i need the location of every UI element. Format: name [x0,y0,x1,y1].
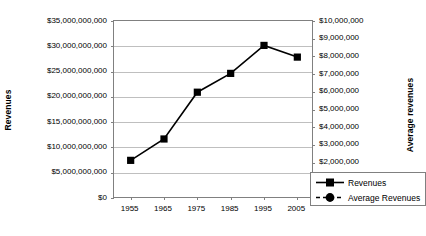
y-axis-left-tick-label: $5,000,000,000 [0,167,107,176]
chart-legend: Revenues Average Revenues [310,172,426,206]
y-axis-right-tick-label: $8,000,000 [319,51,359,60]
y-axis-right-tick-label: $3,000,000 [319,139,359,148]
y-axis-right-tick-label: $9,000,000 [319,33,359,42]
y-axis-right-tick-label: $6,000,000 [319,86,359,95]
y-axis-left-tick-label: $20,000,000,000 [0,91,107,100]
data-series-layer [114,21,314,199]
legend-marker-square-icon [315,177,345,188]
y-axis-left-tick-label: $25,000,000,000 [0,66,107,75]
plot-area: Revenues Average Revenues [113,20,313,198]
legend-label-revenues: Revenues [348,178,386,188]
legend-item-average-revenues: Average Revenues [315,190,421,205]
y-axis-right-tick-label: $10,000,000 [319,16,364,25]
data-point-revenues [260,42,267,49]
data-point-revenues [294,54,301,61]
y-axis-left-title: Revenues [3,74,13,146]
y-axis-right-tick-label: $4,000,000 [319,122,359,131]
y-axis-left-tick-label: $0 [0,193,107,202]
y-axis-right-title: Average revenues [405,67,415,163]
legend-label-average-revenues: Average Revenues [348,193,420,203]
y-axis-right-tick-label: $2,000,000 [319,157,359,166]
y-axis-right-tick-label: $5,000,000 [319,104,359,113]
data-point-revenues [194,89,201,96]
y-axis-right-tick-label: $7,000,000 [319,69,359,78]
y-axis-left-tick-label: $35,000,000,000 [0,16,107,25]
y-axis-left-tick-label: $10,000,000,000 [0,142,107,151]
y-axis-left-tick-label: $30,000,000,000 [0,41,107,50]
data-point-revenues [127,157,134,164]
series-line-revenues [131,45,298,160]
y-axis-left-tick-label: $15,000,000,000 [0,117,107,126]
legend-item-revenues: Revenues [315,175,421,190]
data-point-revenues [160,135,167,142]
data-point-revenues [227,70,234,77]
legend-marker-circle-icon [315,192,345,203]
